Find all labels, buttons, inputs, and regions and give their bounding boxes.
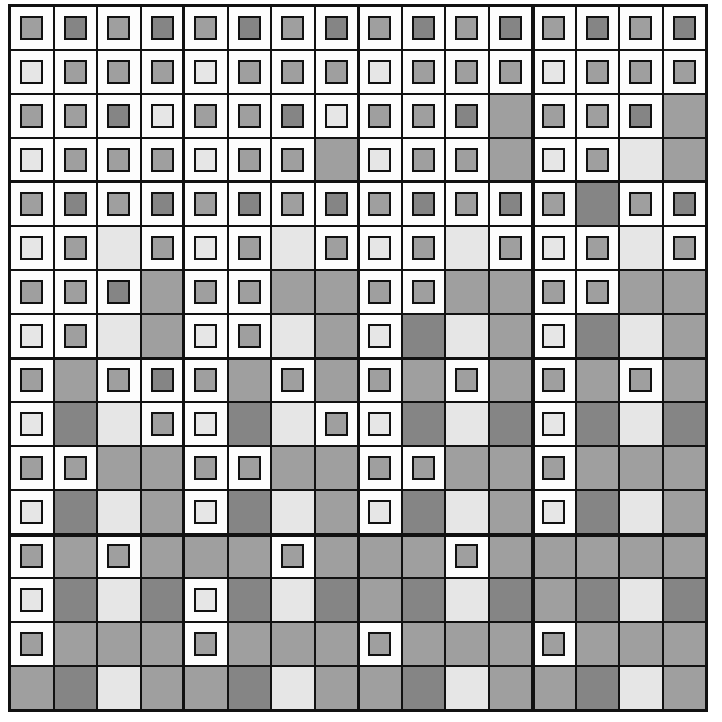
grid-cell xyxy=(577,315,619,357)
inner-square xyxy=(673,192,696,216)
grid-cell xyxy=(272,359,314,401)
grid-cell xyxy=(446,183,488,225)
grid-cell xyxy=(620,491,662,533)
inner-square xyxy=(542,16,565,40)
inner-square xyxy=(194,148,217,172)
inner-square xyxy=(325,192,348,216)
grid-cell xyxy=(577,7,619,49)
grid-cell xyxy=(359,315,401,357)
grid-cell xyxy=(664,447,706,489)
inner-square xyxy=(64,192,87,216)
grid-cell xyxy=(490,51,532,93)
grid-cell xyxy=(98,7,140,49)
grid-cell xyxy=(316,491,358,533)
grid-cell xyxy=(272,403,314,445)
inner-square xyxy=(238,104,261,128)
grid-cell xyxy=(316,271,358,313)
inner-square xyxy=(368,632,391,656)
grid-cell xyxy=(11,403,53,445)
grid-cell xyxy=(664,579,706,621)
inner-square xyxy=(64,148,87,172)
inner-square xyxy=(412,456,435,480)
inner-square xyxy=(542,368,565,392)
grid-cell xyxy=(316,51,358,93)
grid-cell xyxy=(98,183,140,225)
inner-square xyxy=(542,192,565,216)
grid-cell xyxy=(403,183,445,225)
inner-square xyxy=(325,104,348,128)
grid-cell xyxy=(316,315,358,357)
grid-cell xyxy=(316,579,358,621)
inner-square xyxy=(325,60,348,84)
grid-cell xyxy=(490,403,532,445)
grid-cell xyxy=(98,535,140,577)
grid-cell xyxy=(98,227,140,269)
inner-square xyxy=(673,236,696,260)
grid-cell xyxy=(446,403,488,445)
grid-cell xyxy=(272,491,314,533)
grid-cell xyxy=(229,227,271,269)
grid-cell xyxy=(577,535,619,577)
inner-square xyxy=(238,280,261,304)
inner-square xyxy=(151,412,174,436)
inner-square xyxy=(238,324,261,348)
grid-cell xyxy=(664,183,706,225)
grid-cell xyxy=(533,535,575,577)
grid-cell xyxy=(446,271,488,313)
grid-cell xyxy=(98,491,140,533)
grid-cell xyxy=(272,447,314,489)
grid-cell xyxy=(359,139,401,181)
grid-cell xyxy=(577,491,619,533)
grid-cell xyxy=(55,139,97,181)
grid-cell xyxy=(446,579,488,621)
inner-square xyxy=(499,16,522,40)
grid-cell xyxy=(185,535,227,577)
inner-square xyxy=(20,148,43,172)
inner-square xyxy=(542,236,565,260)
grid-cell xyxy=(185,227,227,269)
inner-square xyxy=(542,456,565,480)
grid-cell xyxy=(272,183,314,225)
inner-square xyxy=(151,16,174,40)
inner-square xyxy=(542,60,565,84)
inner-square xyxy=(194,368,217,392)
grid-cell xyxy=(11,315,53,357)
grid-cell xyxy=(403,139,445,181)
grid-cell xyxy=(55,95,97,137)
grid-cell xyxy=(577,51,619,93)
inner-square xyxy=(368,236,391,260)
grid-cell xyxy=(185,51,227,93)
grid-cell xyxy=(446,227,488,269)
grid-cell xyxy=(403,7,445,49)
inner-square xyxy=(194,500,217,524)
grid-cell xyxy=(272,579,314,621)
grid-cell xyxy=(403,623,445,665)
grid-cell xyxy=(577,403,619,445)
grid-cell xyxy=(185,95,227,137)
inner-square xyxy=(368,412,391,436)
grid-cell xyxy=(577,227,619,269)
grid-cell xyxy=(577,95,619,137)
grid-cell xyxy=(229,447,271,489)
grid-cell xyxy=(490,447,532,489)
grid-cell xyxy=(533,139,575,181)
inner-square xyxy=(64,324,87,348)
inner-square xyxy=(281,192,304,216)
grid-cell xyxy=(577,667,619,709)
grid-cell xyxy=(620,579,662,621)
grid-cell xyxy=(98,403,140,445)
inner-square xyxy=(281,368,304,392)
inner-square xyxy=(64,16,87,40)
grid-cell xyxy=(533,623,575,665)
inner-square xyxy=(20,324,43,348)
grid-cell xyxy=(664,51,706,93)
grid-cell xyxy=(359,183,401,225)
inner-square xyxy=(194,16,217,40)
grid-cell xyxy=(142,51,184,93)
grid-cell xyxy=(316,447,358,489)
inner-square xyxy=(455,60,478,84)
inner-square xyxy=(20,632,43,656)
grid-cell xyxy=(98,447,140,489)
inner-square xyxy=(107,148,130,172)
grid-cell xyxy=(359,491,401,533)
